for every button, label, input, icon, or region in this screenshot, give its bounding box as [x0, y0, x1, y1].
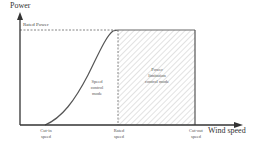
- power-limitation-mode-label: Power limitation control mode: [136, 67, 178, 85]
- rated-speed-label: Rated speed: [106, 128, 132, 140]
- cut-in-speed-label: Cut-in speed: [33, 128, 59, 140]
- speed-control-mode-label: Speed control mode: [82, 79, 112, 97]
- power-curve: [45, 30, 118, 125]
- x-axis-label: Wind speed: [208, 126, 246, 135]
- rated-power-label: Rated Power: [23, 22, 49, 27]
- y-axis-label: Power: [10, 1, 30, 10]
- cut-out-speed-label: Cut-out speed: [183, 128, 209, 140]
- y-axis-arrow-icon: [17, 12, 23, 20]
